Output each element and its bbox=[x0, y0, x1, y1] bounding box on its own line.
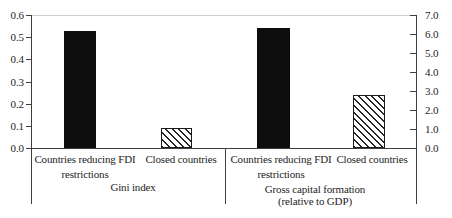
y-axis-tick bbox=[410, 15, 416, 16]
category-label-closed-left: Closed countries bbox=[133, 152, 229, 167]
y-axis-tick-label: 3.0 bbox=[425, 86, 452, 97]
panel-title-gross-capital-formation: Gross capital formation (relative to GDP… bbox=[237, 183, 393, 207]
bar-closed-countries bbox=[161, 128, 192, 148]
panel-title-gini-index: Gini index bbox=[55, 181, 211, 193]
category-label-line: Closed countries bbox=[324, 152, 420, 167]
y-axis-tick bbox=[410, 72, 416, 73]
bar-closed-countries bbox=[353, 95, 385, 148]
y-axis-tick-label: 0.1 bbox=[0, 120, 24, 131]
category-label-closed-right: Closed countries bbox=[324, 152, 420, 167]
y-axis-tick-label: 0.3 bbox=[0, 76, 24, 87]
y-axis-tick bbox=[410, 129, 416, 130]
y-axis-tick bbox=[410, 91, 416, 92]
x-baseline bbox=[31, 148, 417, 149]
y-axis-tick bbox=[410, 148, 416, 149]
y-axis-tick-label: 0.4 bbox=[0, 54, 24, 65]
y-axis-tick-label: 0.6 bbox=[0, 10, 24, 21]
y-axis-tick-label: 4.0 bbox=[425, 67, 452, 78]
y-axis-tick-label: 7.0 bbox=[425, 10, 452, 21]
y-axis-tick bbox=[26, 82, 32, 83]
y-axis-tick-label: 2.0 bbox=[425, 105, 452, 116]
plot-top-border bbox=[31, 15, 416, 16]
category-label-reducing-fdi-left: Countries reducing FDI restrictions bbox=[24, 152, 146, 182]
y-axis-tick bbox=[410, 110, 416, 111]
y-axis-tick-label: 5.0 bbox=[425, 48, 452, 59]
right-y-axis bbox=[416, 15, 417, 204]
y-axis-tick bbox=[26, 126, 32, 127]
figure-canvas: 0.00.10.20.30.40.50.60.01.02.03.04.05.06… bbox=[0, 0, 452, 218]
panel-title-line: Gross capital formation bbox=[237, 183, 393, 195]
bar-countries-reducing-fdi-restrictions bbox=[64, 31, 96, 149]
y-axis-tick bbox=[26, 59, 32, 60]
y-axis-tick-label: 0.5 bbox=[0, 32, 24, 43]
category-label-line: Countries reducing FDI bbox=[24, 152, 146, 167]
category-label-line: restrictions bbox=[24, 167, 146, 182]
bar-countries-reducing-fdi-restrictions bbox=[257, 28, 290, 148]
y-axis-tick-label: 6.0 bbox=[425, 29, 452, 40]
y-axis-tick-label: 0.2 bbox=[0, 98, 24, 109]
y-axis-tick bbox=[26, 37, 32, 38]
y-axis-tick-label: 0.0 bbox=[0, 143, 24, 154]
y-axis-tick-label: 1.0 bbox=[425, 124, 452, 135]
y-axis-tick bbox=[410, 53, 416, 54]
y-axis-tick-label: 0.0 bbox=[425, 143, 452, 154]
category-label-line: restrictions bbox=[220, 167, 342, 182]
y-axis-tick bbox=[26, 104, 32, 105]
y-axis-tick bbox=[26, 15, 32, 16]
category-label-line: Closed countries bbox=[133, 152, 229, 167]
y-axis-tick bbox=[26, 148, 32, 149]
panel-title-line: (relative to GDP) bbox=[237, 195, 393, 207]
y-axis-tick bbox=[410, 34, 416, 35]
